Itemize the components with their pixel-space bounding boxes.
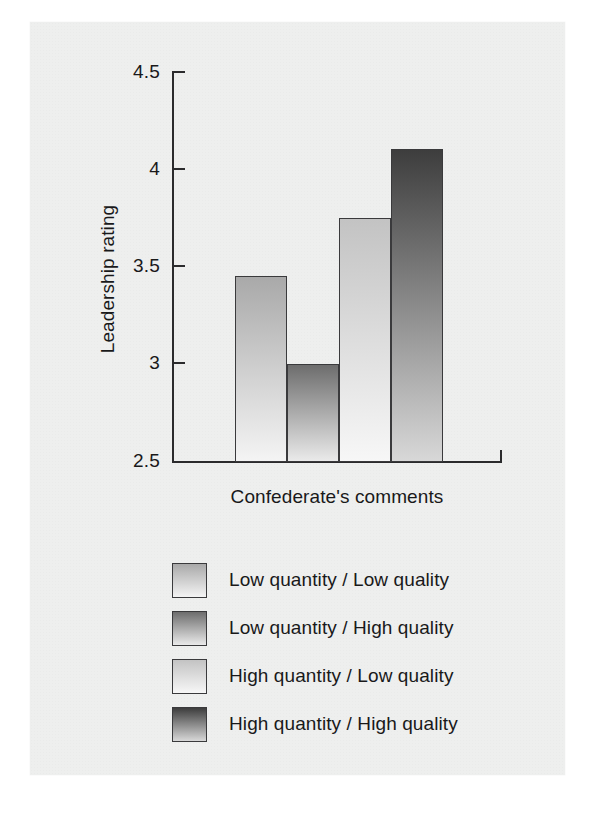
legend-item-low-quantity-low-quality[interactable]: Low quantity / Low quality	[172, 556, 532, 604]
bar-low-quantity-low-quality[interactable]	[235, 276, 287, 462]
figure-page: Leadership rating 4.5 4 3.5 3 2.5 Confed…	[0, 0, 596, 817]
legend-item-low-quantity-high-quality[interactable]: Low quantity / High quality	[172, 604, 532, 652]
bar-high-quantity-low-quality[interactable]	[339, 218, 391, 462]
legend-item-label: High quantity / High quality	[229, 713, 458, 735]
bar-high-quantity-high-quality[interactable]	[391, 149, 443, 462]
legend-item-label: High quantity / Low quality	[229, 665, 454, 687]
legend-swatch-icon	[172, 563, 207, 598]
chart-legend: Low quantity / Low quality Low quantity …	[172, 556, 532, 748]
legend-swatch-icon	[172, 659, 207, 694]
legend-item-high-quantity-low-quality[interactable]: High quantity / Low quality	[172, 652, 532, 700]
bar-low-quantity-high-quality[interactable]	[287, 364, 339, 462]
bars-layer	[0, 0, 596, 530]
legend-item-high-quantity-high-quality[interactable]: High quantity / High quality	[172, 700, 532, 748]
legend-swatch-icon	[172, 611, 207, 646]
legend-item-label: Low quantity / High quality	[229, 617, 454, 639]
bar-chart: Leadership rating 4.5 4 3.5 3 2.5 Confed…	[0, 0, 596, 530]
legend-swatch-icon	[172, 707, 207, 742]
x-axis-title: Confederate's comments	[172, 486, 502, 508]
legend-item-label: Low quantity / Low quality	[229, 569, 449, 591]
